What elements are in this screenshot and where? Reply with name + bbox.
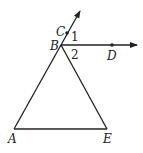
label-angle-2: 2 xyxy=(71,48,79,62)
label-d: D xyxy=(106,49,117,63)
point-d-dot xyxy=(110,43,114,47)
geometry-diagram: C B 1 2 D A E xyxy=(0,0,143,153)
point-c-dot xyxy=(65,31,69,35)
label-e: E xyxy=(102,132,112,146)
label-b: B xyxy=(49,39,59,53)
segment-be xyxy=(61,45,107,129)
ray-bc xyxy=(14,11,80,129)
label-angle-1: 1 xyxy=(71,30,79,44)
label-a: A xyxy=(7,132,17,146)
label-c: C xyxy=(56,25,65,39)
